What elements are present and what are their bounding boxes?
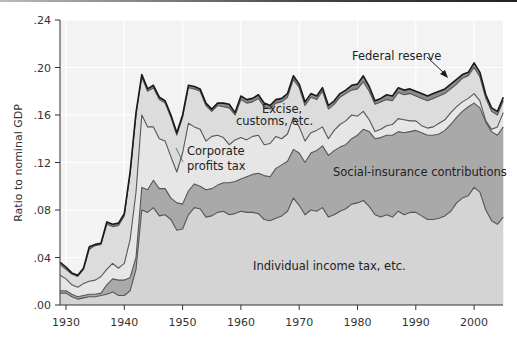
x-tick-label: 1940 xyxy=(110,316,138,329)
annotation-label: customs, etc. xyxy=(236,114,313,128)
stacked-area-chart: .00.04.08.12.16.20.24 193019401950196019… xyxy=(0,0,517,343)
y-tick-label: .20 xyxy=(34,62,52,75)
x-tick-label: 1980 xyxy=(344,316,372,329)
x-tick-label: 1950 xyxy=(169,316,197,329)
annotation-label: Federal reserve xyxy=(352,49,441,63)
annotation-label: Social-insurance contributions xyxy=(333,165,507,179)
annotation-label: Corporate xyxy=(187,144,245,158)
y-tick-label: .24 xyxy=(34,14,52,27)
y-tick-label: .00 xyxy=(34,299,52,312)
x-tick-label: 1990 xyxy=(402,316,430,329)
x-tick-label: 1960 xyxy=(227,316,255,329)
y-tick-label: .12 xyxy=(34,157,52,170)
annotation-label: Individual income tax, etc. xyxy=(253,259,406,273)
x-tick-label: 2000 xyxy=(460,316,488,329)
annotation-label: profits tax xyxy=(187,159,246,173)
x-tick-label: 1970 xyxy=(285,316,313,329)
y-tick-label: .04 xyxy=(34,252,52,265)
x-ticks: 19301940195019601970198019902000 xyxy=(52,305,488,329)
y-axis-label: Ratio to nominal GDP xyxy=(12,104,25,222)
y-tick-label: .08 xyxy=(34,204,52,217)
x-tick-label: 1930 xyxy=(52,316,80,329)
y-tick-label: .16 xyxy=(34,109,52,122)
y-ticks: .00.04.08.12.16.20.24 xyxy=(34,14,61,312)
